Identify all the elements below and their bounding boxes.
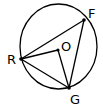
segment-FG: [69, 20, 84, 88]
circle: [20, 4, 97, 89]
segment-RO: [21, 50, 58, 59]
circle-diagram: R F G O: [0, 0, 103, 105]
point-O: [56, 48, 59, 51]
label-R: R: [7, 52, 16, 67]
segment-RF: [21, 20, 84, 59]
point-G: [67, 86, 71, 90]
point-R: [19, 57, 23, 61]
label-G: G: [70, 92, 80, 105]
label-F: F: [88, 6, 95, 21]
label-O: O: [61, 39, 71, 54]
point-F: [82, 18, 86, 22]
